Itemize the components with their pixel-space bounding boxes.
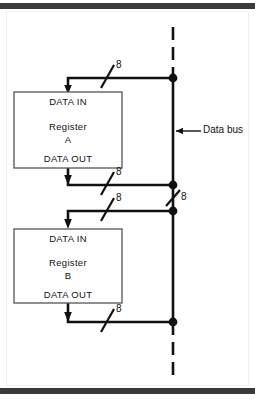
data-bus-width-value: 8 xyxy=(181,191,187,202)
register-a-name-label: Register xyxy=(14,121,122,132)
bus-junction-register-b-output xyxy=(169,318,178,327)
register-a-output-width-value: 8 xyxy=(116,166,122,177)
register-b-output-width-value: 8 xyxy=(116,303,122,314)
register-b-input-arrowhead xyxy=(64,219,72,229)
register-b-input-width-value: 8 xyxy=(116,192,122,203)
register-a-input-width-slash xyxy=(101,65,114,88)
bus-junction-register-a-input xyxy=(169,74,178,83)
figure-canvas: DATA IN Register A DATA OUT DATA IN Regi… xyxy=(0,0,255,400)
register-a-input-width-value: 8 xyxy=(116,59,122,70)
register-b-output-width-slash xyxy=(101,309,114,332)
bus-junction-register-a-output xyxy=(169,181,178,190)
register-b-data-in-label: DATA IN xyxy=(14,233,122,244)
register-a-data-out-label: DATA OUT xyxy=(14,153,122,164)
data-bus-label: Data bus xyxy=(203,124,243,135)
register-b-output-arrowhead xyxy=(64,312,72,322)
register-b-input-width-slash xyxy=(101,198,114,221)
register-a-data-in-label: DATA IN xyxy=(14,96,122,107)
data-bus-callout-arrowhead xyxy=(176,128,183,134)
bus-junction-register-b-input xyxy=(169,207,178,216)
register-b-data-out-label: DATA OUT xyxy=(14,289,122,300)
register-b-input-wire xyxy=(68,211,173,220)
register-a-output-width-slash xyxy=(101,172,114,195)
register-a-designator-label: A xyxy=(14,134,122,145)
register-a-input-wire xyxy=(68,78,173,86)
register-b-designator-label: B xyxy=(14,270,122,281)
register-b-name-label: Register xyxy=(14,257,122,268)
register-data-bus-diagram xyxy=(0,0,255,400)
register-a-output-arrowhead xyxy=(64,175,72,185)
